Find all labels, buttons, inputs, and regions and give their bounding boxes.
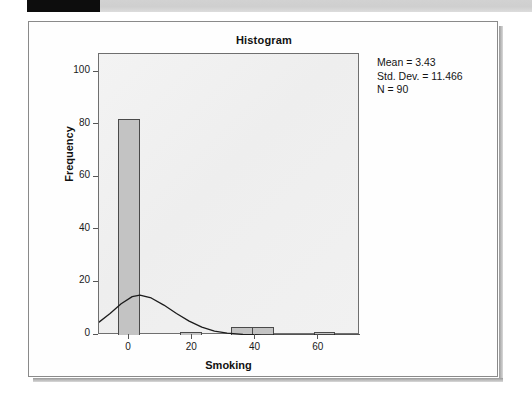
y-axis-tick-label: 40	[54, 222, 90, 233]
chart-output-frame: Histogram Frequency Smoking 020406080100…	[28, 21, 498, 377]
y-axis-tick-label: 0	[54, 327, 90, 338]
y-axis-tick-label: 100	[54, 64, 90, 75]
stat-n: N = 90	[377, 83, 463, 97]
x-axis-title: Smoking	[98, 359, 359, 371]
y-axis-tick-label: 20	[54, 274, 90, 285]
plot-area	[98, 53, 359, 334]
x-axis-tick-label: 40	[235, 341, 275, 352]
y-axis-tick	[93, 334, 98, 335]
y-axis-tick-label: 60	[54, 169, 90, 180]
chart-title: Histogram	[29, 34, 499, 46]
statistics-annotation: Mean = 3.43 Std. Dev. = 11.466 N = 90	[377, 56, 463, 97]
x-axis-tick-label: 60	[298, 341, 338, 352]
scanner-top-band	[0, 0, 532, 14]
y-axis-tick	[93, 71, 98, 72]
x-axis-tick-label: 20	[171, 341, 211, 352]
y-axis-tick	[93, 228, 98, 229]
y-axis-tick	[93, 176, 98, 177]
histogram-svg	[99, 54, 360, 335]
stat-stddev: Std. Dev. = 11.466	[377, 70, 463, 84]
y-axis-tick	[93, 281, 98, 282]
x-axis-tick	[191, 334, 192, 339]
y-axis-tick-label: 80	[54, 117, 90, 128]
x-axis-tick	[317, 334, 318, 339]
stat-mean: Mean = 3.43	[377, 56, 463, 70]
y-axis-title: Frequency	[63, 94, 75, 214]
redacted-block	[27, 0, 100, 12]
scanner-gray-strip	[27, 0, 532, 12]
y-axis-tick	[93, 123, 98, 124]
x-axis-tick	[254, 334, 255, 339]
histogram-bar	[252, 327, 273, 335]
frame-shadow-bottom	[33, 378, 503, 382]
x-axis-tick	[128, 334, 129, 339]
x-axis-tick-label: 0	[108, 341, 148, 352]
frame-shadow-right	[499, 26, 503, 382]
